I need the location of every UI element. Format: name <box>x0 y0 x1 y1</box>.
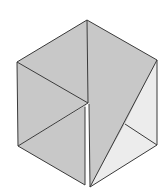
hexagon-diagram <box>0 0 167 196</box>
